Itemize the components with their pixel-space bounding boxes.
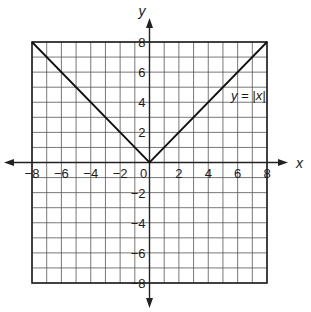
y-axis-label: y <box>138 3 147 19</box>
y-tick-label: −4 <box>131 216 146 231</box>
x-tick-label: 8 <box>263 166 270 181</box>
x-tick-label: 6 <box>234 166 241 181</box>
y-tick-label: 8 <box>138 35 145 50</box>
x-axis-right-arrow-icon <box>278 159 288 166</box>
x-tick-label: −6 <box>54 166 69 181</box>
equation-label: y = |x| <box>230 88 266 103</box>
x-axis-left-arrow-icon <box>4 159 14 166</box>
y-tick-label: −6 <box>131 246 146 261</box>
y-tick-label: 6 <box>138 65 145 80</box>
y-tick-label: 2 <box>138 125 145 140</box>
x-tick-label: 2 <box>175 166 182 181</box>
x-tick-label: −8 <box>25 166 40 181</box>
y-tick-label: −2 <box>131 186 146 201</box>
y-axis-up-arrow-icon <box>146 18 153 28</box>
x-axis-label: x <box>295 155 304 171</box>
y-tick-label: −8 <box>131 276 146 291</box>
graph: −8−6−4−202468−8−6−4−22468xyy = |x| <box>0 0 311 312</box>
x-tick-label: −4 <box>83 166 98 181</box>
x-tick-label: −2 <box>113 166 128 181</box>
y-tick-label: 4 <box>138 95 145 110</box>
x-tick-label: 4 <box>205 166 212 181</box>
y-axis-down-arrow-icon <box>146 298 153 308</box>
x-tick-label: 0 <box>140 166 147 181</box>
